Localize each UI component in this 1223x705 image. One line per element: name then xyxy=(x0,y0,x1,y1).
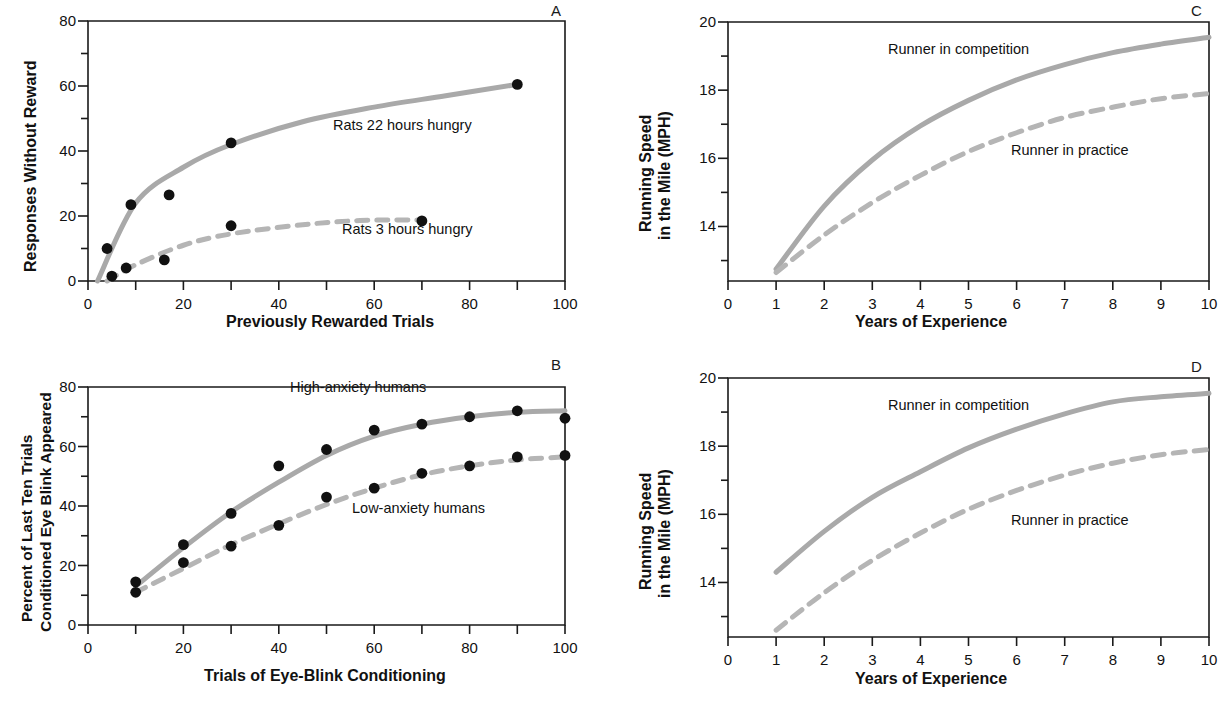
x-tick-label: 4 xyxy=(898,651,942,668)
y-tick-label: 60 xyxy=(42,77,76,94)
y-tick-label: 0 xyxy=(42,272,76,289)
x-tick-label: 6 xyxy=(995,295,1039,312)
x-tick-label: 0 xyxy=(66,295,110,312)
x-tick-label: 80 xyxy=(448,639,492,656)
x-tick-label: 5 xyxy=(947,651,991,668)
x-tick-label: 9 xyxy=(1139,651,1183,668)
x-tick-label: 100 xyxy=(543,295,587,312)
y-tick-label: 20 xyxy=(682,369,716,386)
y-tick-label: 16 xyxy=(682,505,716,522)
y-tick-label: 60 xyxy=(42,438,76,455)
x-tick-label: 1 xyxy=(754,651,798,668)
panel-d-y-axis-title-line2: in the Mile (MPH) xyxy=(656,469,674,598)
y-tick-label: 80 xyxy=(42,12,76,29)
panel-b-y-axis-title-line1: Percent of Last Ten Trials xyxy=(18,435,36,623)
x-tick-label: 1 xyxy=(754,295,798,312)
x-tick-label: 7 xyxy=(1043,651,1087,668)
x-tick-label: 60 xyxy=(352,639,396,656)
x-tick-label: 60 xyxy=(352,295,396,312)
y-tick-label: 14 xyxy=(682,573,716,590)
panel-d-y-axis-title-line1: Running Speed xyxy=(637,473,655,590)
x-tick-label: 2 xyxy=(802,651,846,668)
panel-a-y-axis-title: Responses Without Reward xyxy=(22,61,40,272)
panel-c-y-axis-title-line1: Running Speed xyxy=(637,115,655,232)
x-tick-label: 80 xyxy=(448,295,492,312)
x-tick-label: 3 xyxy=(850,651,894,668)
panel-a-label-solid: Rats 22 hours hungry xyxy=(333,117,472,133)
x-tick-label: 0 xyxy=(706,295,750,312)
panel-b-x-axis-title: Trials of Eye-Blink Conditioning xyxy=(125,667,525,685)
x-tick-label: 100 xyxy=(543,639,587,656)
x-tick-label: 5 xyxy=(947,295,991,312)
panel-b: B Percent of Last Ten Trials Conditioned… xyxy=(0,352,612,705)
panel-b-label-solid: High-anxiety humans xyxy=(290,379,426,395)
x-tick-label: 9 xyxy=(1139,295,1183,312)
panel-c-y-axis-title-line2: in the Mile (MPH) xyxy=(656,111,674,240)
x-tick-label: 40 xyxy=(257,295,301,312)
x-tick-label: 8 xyxy=(1091,295,1135,312)
panel-d-label-dashed: Runner in practice xyxy=(1011,512,1129,528)
x-tick-label: 20 xyxy=(161,295,205,312)
x-tick-label: 0 xyxy=(706,651,750,668)
x-tick-label: 6 xyxy=(995,651,1039,668)
x-tick-label: 20 xyxy=(161,639,205,656)
panel-d: D Running Speed in the Mile (MPH) Years … xyxy=(611,352,1223,705)
y-tick-label: 80 xyxy=(42,378,76,395)
x-tick-label: 40 xyxy=(257,639,301,656)
panel-a: A Responses Without Reward Previously Re… xyxy=(0,0,612,352)
panel-b-label-dashed: Low-anxiety humans xyxy=(352,500,485,516)
y-tick-label: 20 xyxy=(682,13,716,30)
panel-c-label-solid: Runner in competition xyxy=(888,41,1029,57)
x-tick-label: 3 xyxy=(850,295,894,312)
x-tick-label: 2 xyxy=(802,295,846,312)
y-tick-label: 40 xyxy=(42,142,76,159)
panel-d-label-solid: Runner in competition xyxy=(888,397,1029,413)
panel-c: C Running Speed in the Mile (MPH) Years … xyxy=(611,0,1223,352)
y-tick-label: 20 xyxy=(42,557,76,574)
y-tick-label: 40 xyxy=(42,497,76,514)
panel-a-x-axis-title: Previously Rewarded Trials xyxy=(130,313,530,331)
x-tick-label: 0 xyxy=(66,639,110,656)
x-tick-label: 8 xyxy=(1091,651,1135,668)
y-tick-label: 20 xyxy=(42,207,76,224)
x-tick-label: 10 xyxy=(1187,295,1223,312)
x-tick-label: 4 xyxy=(898,295,942,312)
y-tick-label: 16 xyxy=(682,149,716,166)
panel-c-label-dashed: Runner in practice xyxy=(1011,142,1129,158)
panel-c-x-axis-title: Years of Experience xyxy=(766,313,1096,331)
x-tick-label: 10 xyxy=(1187,651,1223,668)
panel-d-x-axis-title: Years of Experience xyxy=(766,670,1096,688)
y-tick-label: 0 xyxy=(42,616,76,633)
y-tick-label: 14 xyxy=(682,217,716,234)
x-tick-label: 7 xyxy=(1043,295,1087,312)
y-tick-label: 18 xyxy=(682,437,716,454)
panel-a-label-dashed: Rats 3 hours hungry xyxy=(342,221,473,237)
y-tick-label: 18 xyxy=(682,81,716,98)
